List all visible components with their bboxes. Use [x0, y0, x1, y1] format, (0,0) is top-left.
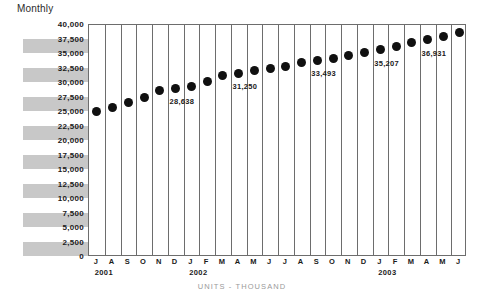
y-tick-label: 10,000 — [58, 194, 84, 203]
y-tick-label: 0 — [79, 252, 84, 261]
x-axis-year-label: 2002 — [189, 268, 207, 277]
y-tick-label: 2,500 — [62, 237, 84, 246]
x-tick-label: M — [439, 257, 445, 266]
data-point — [329, 54, 338, 63]
data-point-label: 33,493 — [311, 69, 336, 78]
y-tick-label: 20,000 — [58, 136, 84, 145]
x-tick-label: J — [267, 257, 271, 266]
x-tick-label: S — [125, 257, 130, 266]
data-point-label: 28,638 — [170, 97, 195, 106]
data-point-label: 35,207 — [374, 59, 399, 68]
x-tick-label: J — [456, 257, 460, 266]
x-axis-year-label: 2001 — [95, 268, 113, 277]
data-point — [344, 51, 353, 60]
x-tick-label: A — [424, 257, 430, 266]
x-tick-label: J — [283, 257, 287, 266]
plot-area: 28,63831,25033,49335,20736,93138,648 — [88, 24, 466, 256]
data-point — [187, 82, 196, 91]
x-axis-year-label: 2003 — [378, 268, 396, 277]
x-tick-label: J — [188, 257, 192, 266]
x-tick-label: O — [140, 257, 146, 266]
data-point — [140, 93, 149, 102]
x-tick-label: N — [345, 257, 351, 266]
y-tick-label: 32,500 — [58, 63, 84, 72]
x-tick-label: J — [377, 257, 381, 266]
x-tick-label: F — [393, 257, 398, 266]
data-point — [423, 35, 432, 44]
data-point — [250, 66, 259, 75]
x-tick-label: J — [94, 257, 98, 266]
y-axis-labels: 02,5005,0007,50010,00012,50015,00017,500… — [23, 24, 86, 256]
data-point — [455, 28, 464, 37]
x-tick-label: A — [109, 257, 115, 266]
x-tick-label: N — [156, 257, 162, 266]
data-point — [124, 98, 133, 107]
x-tick-label: A — [235, 257, 241, 266]
x-tick-label: O — [329, 257, 335, 266]
x-tick-label: M — [219, 257, 225, 266]
data-point — [376, 45, 385, 54]
data-point — [266, 64, 275, 73]
data-series-layer: 28,63831,25033,49335,20736,93138,648 — [89, 25, 465, 255]
data-point — [407, 38, 416, 47]
y-tick-label: 7,500 — [62, 208, 84, 217]
data-point-label: 36,931 — [422, 49, 447, 58]
x-tick-label: M — [408, 257, 414, 266]
data-point — [234, 69, 243, 78]
data-point — [155, 86, 164, 95]
x-tick-label: F — [204, 257, 209, 266]
monthly-scatter-chart: Monthly 28,63831,25033,49335,20736,93138… — [0, 0, 484, 302]
data-point — [108, 103, 117, 112]
data-point — [313, 56, 322, 65]
y-tick-label: 40,000 — [58, 20, 84, 29]
chart-title: Monthly — [17, 3, 53, 14]
data-point — [360, 48, 369, 57]
x-tick-label: D — [361, 257, 367, 266]
y-tick-label: 12,500 — [58, 179, 84, 188]
data-point — [171, 84, 180, 93]
data-point — [439, 32, 448, 41]
y-tick-label: 27,500 — [58, 92, 84, 101]
x-tick-label: A — [298, 257, 304, 266]
data-point — [281, 62, 290, 71]
y-tick-label: 5,000 — [62, 223, 84, 232]
data-point — [218, 71, 227, 80]
x-tick-label: S — [314, 257, 319, 266]
data-point-label: 31,250 — [233, 82, 258, 91]
y-tick-label: 37,500 — [58, 34, 84, 43]
y-tick-label: 17,500 — [58, 150, 84, 159]
y-tick-label: 25,000 — [58, 107, 84, 116]
x-tick-label: M — [250, 257, 256, 266]
y-tick-label: 30,000 — [58, 78, 84, 87]
x-tick-label: D — [172, 257, 178, 266]
data-point — [203, 77, 212, 86]
data-point — [392, 42, 401, 51]
units-caption: UNITS - THOUSAND — [0, 282, 484, 291]
y-tick-label: 35,000 — [58, 49, 84, 58]
y-tick-label: 15,000 — [58, 165, 84, 174]
data-point — [92, 107, 101, 116]
data-point — [297, 58, 306, 67]
y-tick-label: 22,500 — [58, 121, 84, 130]
